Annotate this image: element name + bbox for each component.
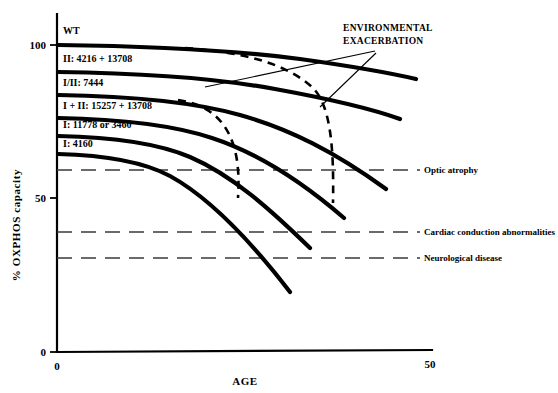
curve-label-ii-4216-13708: II: 4216 + 13708 bbox=[63, 53, 132, 64]
threshold-label-neurological: Neurological disease bbox=[424, 253, 502, 263]
y-tick-label-100: 100 bbox=[30, 39, 47, 51]
curve-label-i-plus-ii-15257-13708: I + II: 15257 + 13708 bbox=[63, 100, 152, 111]
threshold-label-cardiac: Cardiac conduction abnormalities bbox=[424, 227, 555, 237]
curve-label-wt: WT bbox=[63, 25, 80, 36]
x-tick-label-0: 0 bbox=[54, 360, 60, 372]
oxphos-capacity-decline-chart: 100 50 0 0 50 % OXPHOS capacity AGE Opti… bbox=[0, 0, 558, 393]
curve-label-i-4160: I: 4160 bbox=[63, 138, 93, 149]
curve-label-i-11778-3460: I: 11778 or 3460 bbox=[63, 119, 131, 130]
x-axis-title: AGE bbox=[232, 375, 258, 387]
annotation-environmental-line2: EXACERBATION bbox=[343, 36, 424, 46]
annotation-environmental-line1: ENVIRONMENTAL bbox=[343, 23, 433, 33]
y-axis-title: % OXPHOS capacity bbox=[10, 169, 22, 281]
y-tick-label-50: 50 bbox=[35, 192, 47, 204]
y-tick-label-0: 0 bbox=[41, 346, 47, 358]
threshold-label-optic-atrophy: Optic atrophy bbox=[424, 165, 479, 175]
x-tick-label-50: 50 bbox=[425, 358, 437, 370]
curve-label-i-ii-7444: I/II: 7444 bbox=[63, 77, 103, 88]
